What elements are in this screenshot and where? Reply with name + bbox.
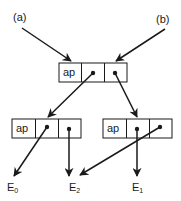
node-top-tag: ap (63, 66, 75, 78)
node-right-tag: ap (107, 122, 119, 134)
leaf-E0: E0 (7, 181, 18, 194)
diagram-canvas: (a) (b) ap ap ap E0 E2 E1 (0, 0, 181, 201)
edge-a-to-top (22, 28, 71, 61)
edge-b-to-top (116, 29, 165, 61)
node-top: ap (59, 63, 127, 82)
input-label-b: (b) (156, 13, 169, 25)
input-label-a: (a) (13, 11, 26, 23)
leaf-E2: E2 (69, 181, 80, 194)
leaf-E1: E1 (132, 181, 143, 194)
node-left-tag: ap (16, 122, 28, 134)
